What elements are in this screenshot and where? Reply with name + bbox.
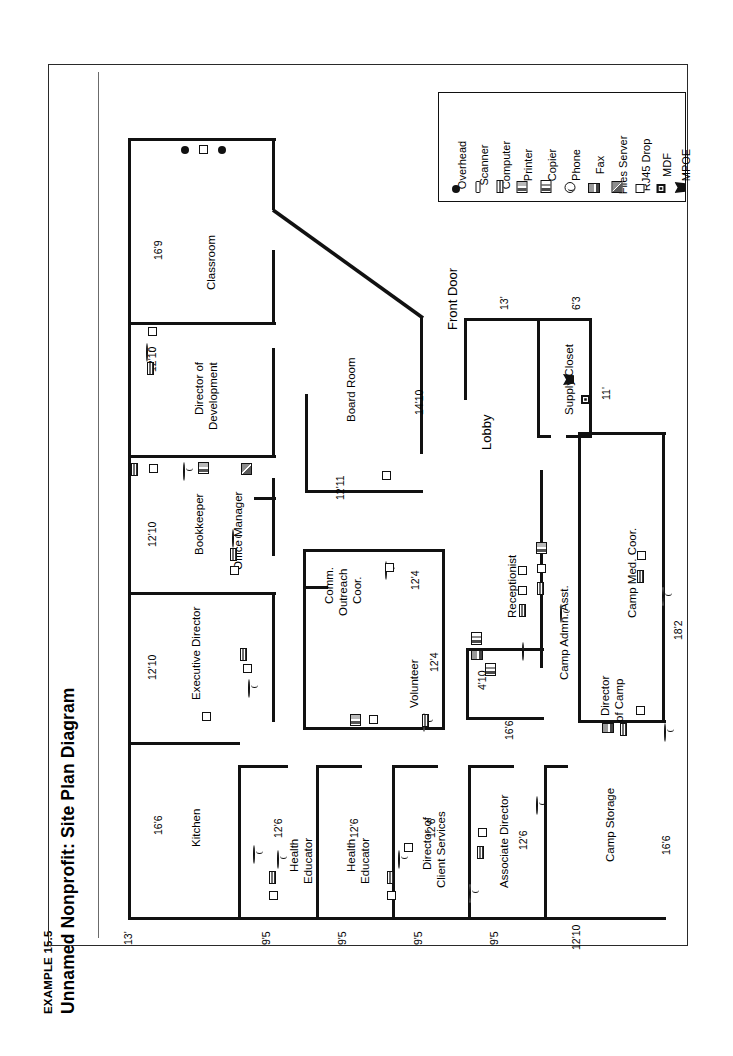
dim-lobby-width: 13' [498, 296, 510, 310]
room-label-board-room: Board Room [345, 357, 358, 422]
phone-icon [232, 529, 234, 548]
file-server-icon [612, 181, 623, 193]
wall-outer-bottom [128, 917, 666, 920]
legend-item-computer: Computer [489, 99, 511, 197]
phone-icon [664, 723, 666, 742]
wall-health-ed2-left [316, 765, 319, 917]
computer-icon [497, 180, 504, 193]
dim-camp-storage-width: 16'6 [660, 835, 672, 855]
rj45-drop-icon [369, 715, 378, 724]
overhead-icon [181, 146, 189, 154]
printer-icon [517, 181, 528, 193]
rj45-drop-icon [404, 843, 413, 852]
dim-client-services-width: 12'6 [425, 818, 437, 838]
legend-item-overhead: Overhead [445, 99, 467, 197]
legend-item-rj45-drop: RJ45 Drop [629, 99, 651, 197]
room-label-director-of-camp-a: Director [599, 676, 612, 716]
dim-comm-outreach-height: 12'4 [409, 570, 421, 590]
phone-icon [398, 850, 400, 869]
wall-dev-right [272, 348, 275, 458]
wall-client-services-top [392, 765, 438, 768]
phone-icon [522, 642, 524, 661]
copier-icon [541, 180, 552, 193]
wall-board-room-bottom [305, 490, 423, 493]
room-label-comm-outreach-2: Outreach [337, 569, 350, 616]
legend-item-copier: Copier [535, 99, 557, 197]
dim-classroom-width: 16'9 [152, 240, 164, 260]
computer-icon [422, 714, 429, 727]
wall-diagonal [265, 200, 430, 325]
room-label-camp-storage: Camp Storage [604, 788, 617, 862]
room-label-health-educator-1b: Educator [302, 838, 315, 884]
legend-label: Printer [522, 149, 534, 181]
rj45-drop-icon [636, 706, 645, 715]
legend-item-scanner: Scanner [467, 99, 489, 197]
rj45-drop-icon [199, 145, 208, 154]
rj45-drop-icon [636, 184, 645, 193]
room-label-lobby: Lobby [480, 415, 493, 450]
phone-icon [248, 679, 250, 698]
dim-bottom-3: 9'5 [336, 931, 348, 945]
legend-item-phone: Phone [559, 99, 581, 197]
legend-item-fax: Fax [583, 99, 605, 197]
wall-camp-storage-top [544, 765, 568, 768]
wall-lobby-left [464, 318, 467, 400]
dim-supply-height: 11' [600, 387, 612, 400]
room-label-associate-director: Associate Director [498, 795, 511, 888]
rj45-drop-icon [518, 586, 527, 595]
scanner-icon [476, 181, 481, 193]
computer-icon [620, 723, 627, 736]
phone-icon [277, 850, 279, 869]
room-label-comm-outreach-3: Coor. [351, 577, 364, 605]
rj45-drop-icon [202, 712, 211, 721]
mdf-icon [581, 395, 590, 404]
wall-camp-block-left [578, 432, 581, 722]
wall-camp-block-right [662, 432, 665, 722]
wall-assoc-dir-top [468, 765, 514, 768]
room-label-classroom: Classroom [205, 235, 218, 290]
dim-board-room-height: 14'10 [413, 390, 425, 415]
computer-icon [519, 604, 526, 617]
wall-outer-left [128, 138, 131, 920]
dim-bottom-2: 9'5 [260, 931, 272, 945]
dim-health-ed-1: 12'6 [272, 818, 284, 838]
phone-icon [536, 796, 538, 815]
room-label-volunteer: Volunteer [408, 659, 421, 708]
legend-label: Fax [594, 156, 606, 174]
overhead-icon [218, 146, 226, 154]
room-label-health-educator-2a: Health [345, 839, 358, 872]
wall-supply-bottom-left [537, 435, 551, 438]
wall-exec-right [272, 592, 275, 722]
dim-volunteer-height: 12'4 [428, 652, 440, 672]
phone-icon [146, 343, 148, 362]
room-label-camp-admin-asst: Camp Admn. Asst. [558, 585, 571, 680]
room-label-executive-director: Executive Director [190, 607, 203, 700]
legend-item-files-server: Files Server [606, 99, 628, 197]
rj45-drop-icon [518, 566, 527, 575]
wall-reception-left [466, 648, 469, 720]
wall-outreach-left [303, 549, 306, 727]
legend-item-mpoe: MPOE [669, 99, 691, 197]
wall-health-ed1-left [238, 765, 241, 917]
phone-icon [560, 604, 562, 623]
fax-icon [471, 650, 483, 660]
room-label-comm-outreach-1: Comm. [323, 567, 336, 604]
overhead-icon [452, 185, 460, 193]
phone-icon [565, 182, 576, 193]
dim-bookkeeper-width: 12'10 [146, 522, 158, 547]
rj45-drop-icon [148, 327, 157, 336]
dim-supply-width: 6'3 [570, 296, 582, 310]
wall-supply-left [537, 318, 540, 438]
printer-icon [536, 542, 547, 554]
printer-icon [198, 462, 209, 474]
wall-supply-bottom-right [566, 435, 592, 438]
wall-exec-kitchen-divider [128, 742, 240, 745]
room-label-director-development-2: Development [207, 362, 220, 430]
phone-icon [662, 587, 664, 606]
room-label-director-of-camp-b: of Camp [613, 679, 626, 722]
rj45-drop-icon [637, 551, 646, 560]
wall-supply-top [524, 318, 592, 321]
wall-supply-right [589, 318, 592, 438]
label-front-door: Front Door [446, 268, 459, 330]
dim-assoc-dir-width: 12'6 [517, 830, 529, 850]
